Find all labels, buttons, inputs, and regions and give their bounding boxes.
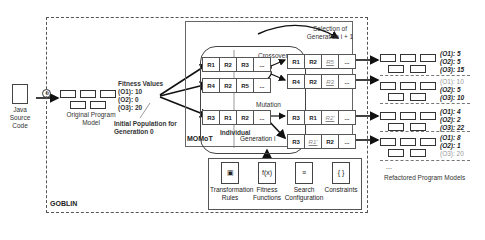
selection-label: Selection of Generation i + 1 (300, 25, 360, 41)
rule-cell: ... (339, 75, 355, 88)
result-o3: (O3): 10 (440, 94, 480, 102)
mutated-rule-cell: R2' (322, 111, 339, 124)
rule-cell: R4 (288, 75, 305, 88)
search-configuration: ≡Search Configuration (284, 162, 324, 201)
individual-row: R3R1R2... (202, 110, 271, 125)
result-o2: (O2): 1 (440, 142, 480, 150)
fitness-functions: f(x)Fitness Functions (247, 162, 287, 201)
document-icon (12, 84, 28, 104)
more-models: ... (386, 163, 392, 171)
rule-cell: R3 (288, 135, 305, 148)
fitness-o2: (O2): 0 (118, 96, 163, 104)
fitness-values: Fitness Values (O1): 10 (O2): 0 (O3): 20 (118, 80, 163, 112)
initial-population-label: Initial Population for Generation 0 (114, 120, 180, 136)
offspring-row: R3R1'R2... (287, 134, 356, 149)
braces-icon: { } (332, 162, 350, 184)
goblin-label: GOBLIN (50, 200, 77, 207)
rule-cell: R1 (305, 111, 322, 124)
constraints: { }Constraints (321, 162, 361, 194)
result-o1: (O1): 4 (440, 108, 480, 116)
original-model-label: Original Program Model (66, 111, 116, 127)
config-icon: ≡ (295, 162, 313, 184)
rule-cell: R2 (322, 135, 339, 148)
rule-cell: R2 (237, 111, 254, 124)
individual-label: Individual (220, 129, 250, 137)
rule-cell: R1 (203, 58, 220, 71)
rule-cell: ... (254, 58, 270, 71)
result-o1: (O1): 10 (440, 78, 480, 86)
rule-cell: R1 (288, 55, 305, 68)
rule-cell: ... (254, 79, 270, 92)
rule-cell: R5 (237, 79, 254, 92)
mutated-rule-cell: R3 (322, 75, 339, 88)
offspring-row: R1R2R5... (287, 54, 356, 69)
result-o2: (O2): 2 (440, 116, 480, 124)
rule-cell: R2 (305, 55, 322, 68)
result-o3: (O3): 20 (440, 150, 480, 158)
function-icon: f(x) (258, 162, 276, 184)
fitness-title: Fitness Values (118, 80, 163, 88)
mutated-rule-cell: R1' (305, 135, 322, 148)
result-o2: (O2): 5 (440, 58, 480, 66)
java-source-label: Java Source Code (6, 106, 34, 130)
rule-cell: ... (339, 55, 355, 68)
result-o3: (O3): 15 (440, 66, 480, 74)
java-source: Java Source Code (6, 84, 34, 130)
tool-label: Fitness Functions (247, 186, 287, 201)
rule-cell: R2 (220, 58, 237, 71)
fitness-o3: (O3): 20 (118, 104, 163, 112)
rule-cell: R3 (288, 111, 305, 124)
diagram-icon: ▣ (221, 162, 239, 184)
rule-cell: R2 (305, 75, 322, 88)
refactored-label: Refactored Program Models (384, 174, 484, 182)
individual-row: R1R2R3... (202, 57, 271, 72)
fitness-o1: (O1): 10 (118, 88, 163, 96)
result-o2: (O2): 5 (440, 86, 480, 94)
refactored-models: (O1): 5(O2): 5(O3): 15 (O1): 10(O2): 5(O… (380, 50, 485, 190)
result-o1: (O1): 5 (440, 50, 480, 58)
rule-cell: R4 (203, 79, 220, 92)
tool-label: Transformation Rules (210, 186, 250, 201)
rule-cell: ... (339, 111, 355, 124)
tool-label: Search Configuration (284, 186, 324, 201)
tool-label: Constraints (321, 186, 361, 194)
mutation-label: Mutation (256, 101, 281, 109)
transformation-rules: ▣Transformation Rules (210, 162, 250, 201)
offspring-row: R4R2R3... (287, 74, 356, 89)
rule-cell: ... (254, 111, 270, 124)
rule-cell: R3 (237, 58, 254, 71)
rule-cell: R3 (203, 111, 220, 124)
rule-cell: ... (339, 135, 355, 148)
offspring-row: R3R1R2'... (287, 110, 356, 125)
rule-cell: R1 (220, 111, 237, 124)
mutated-rule-cell: R5 (322, 55, 339, 68)
rule-cell: R2 (220, 79, 237, 92)
result-o1: (O1): 8 (440, 134, 480, 142)
individual-row: R4R2R5... (202, 78, 271, 93)
